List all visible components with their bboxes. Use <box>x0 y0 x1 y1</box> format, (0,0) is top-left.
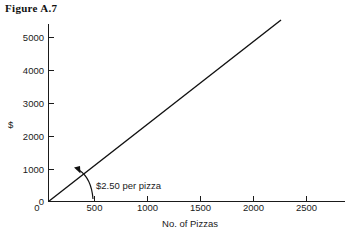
y-tick-label-3000: 3000 <box>23 98 44 109</box>
x-tick-label-500: 500 <box>87 202 103 213</box>
y-tick-label-2000: 2000 <box>23 131 44 142</box>
x-tick-label-2500: 2500 <box>296 202 317 213</box>
y-tick-label-4000: 4000 <box>23 65 44 76</box>
x-tick-label-0: 0 <box>34 202 39 213</box>
y-tick-label-1000: 1000 <box>23 164 44 175</box>
line-chart: 0 1000 2000 3000 4000 5000 $ 0 500 1000 … <box>0 0 351 233</box>
annotation-arrow <box>79 170 93 199</box>
annotation-arrowhead <box>74 166 81 174</box>
x-tick-label-1500: 1500 <box>190 202 211 213</box>
x-axis-title: No. of Pizzas <box>162 218 218 229</box>
y-tick-label-5000: 5000 <box>23 32 44 43</box>
x-tick-label-1000: 1000 <box>137 202 158 213</box>
y-axis-title: $ <box>8 119 14 130</box>
figure-canvas: Figure A.7 0 1000 2000 3000 4000 5000 $ … <box>0 0 351 233</box>
x-tick-label-2000: 2000 <box>243 202 264 213</box>
annotation-label: $2.50 per pizza <box>96 180 162 191</box>
